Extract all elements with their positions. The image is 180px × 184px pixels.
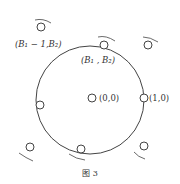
node-origin bbox=[88, 94, 96, 102]
node-bottom-left bbox=[26, 143, 34, 151]
node-left bbox=[36, 101, 44, 109]
node-b1-b2 bbox=[100, 41, 108, 49]
label-one-zero: (1,0) bbox=[149, 93, 169, 103]
label-b1-b2: (B₁ , B₂) bbox=[81, 55, 115, 65]
arrow-icon bbox=[98, 37, 115, 42]
label-b1m1-b2: (B₁ − 1,B₂) bbox=[15, 39, 62, 49]
node-top-right bbox=[144, 41, 152, 49]
label-origin: (0,0) bbox=[99, 93, 119, 103]
arrow-icon bbox=[69, 154, 85, 160]
arrow-icon bbox=[19, 153, 33, 161]
arrow-icon bbox=[143, 37, 158, 42]
node-b1m1-b2 bbox=[37, 23, 45, 31]
node-bottom bbox=[77, 145, 85, 153]
arrow-icon bbox=[134, 152, 145, 159]
diagram: (B₁ − 1,B₂) (B₁ , B₂) (0,0) (1,0) 图 3 bbox=[0, 0, 180, 184]
node-one-zero bbox=[140, 94, 148, 102]
figure-caption: 图 3 bbox=[82, 169, 98, 178]
arrow-icon bbox=[35, 19, 51, 23]
node-bottom-right bbox=[140, 142, 148, 150]
